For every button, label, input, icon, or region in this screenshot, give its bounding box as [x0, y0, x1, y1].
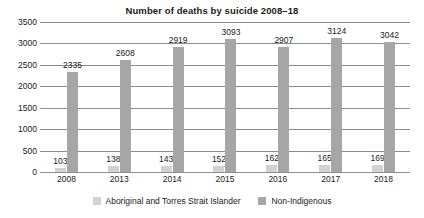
y-axis-tick-label: 2500: [3, 60, 37, 70]
bar-value-label: 143: [159, 154, 173, 164]
bar[interactable]: [278, 47, 289, 172]
legend-label: Aboriginal and Torres Strait Islander: [106, 196, 241, 206]
bar[interactable]: [55, 168, 66, 172]
x-axis-tick-label: 2015: [216, 174, 235, 184]
chart-container: Number of deaths by suicide 2008–18 3500…: [0, 0, 424, 218]
bar-value-label: 2608: [116, 48, 135, 58]
legend-swatch-icon: [93, 197, 101, 205]
y-axis-tick-label: 1500: [3, 103, 37, 113]
x-axis-tick-label: 2013: [110, 174, 129, 184]
bar[interactable]: [266, 165, 277, 172]
bar[interactable]: [384, 42, 395, 172]
y-axis-tick-label: 1000: [3, 124, 37, 134]
bar-value-label: 169: [370, 153, 384, 163]
bar[interactable]: [173, 47, 184, 172]
bar-group: 1032335: [40, 22, 93, 172]
bar[interactable]: [331, 38, 342, 172]
y-axis-tick-label: 2000: [3, 81, 37, 91]
chart-legend: Aboriginal and Torres Strait IslanderNon…: [0, 196, 424, 206]
gridline: [40, 172, 410, 173]
x-axis-tick-label: 2014: [163, 174, 182, 184]
legend-item[interactable]: Aboriginal and Torres Strait Islander: [93, 196, 241, 206]
bar[interactable]: [67, 72, 78, 172]
bar-value-label: 3124: [327, 26, 346, 36]
bar-value-label: 2907: [274, 35, 293, 45]
x-axis: 2008201320142015201620172018: [40, 174, 410, 187]
y-axis: 3500300025002000150010005000: [0, 22, 37, 172]
bar-group: 1382608: [93, 22, 146, 172]
bar[interactable]: [161, 166, 172, 172]
bar-value-label: 165: [318, 153, 332, 163]
legend-swatch-icon: [258, 197, 266, 205]
chart-title: Number of deaths by suicide 2008–18: [0, 5, 424, 16]
bar-value-label: 2335: [63, 60, 82, 70]
y-axis-tick-label: 500: [3, 146, 37, 156]
bar-value-label: 138: [106, 154, 120, 164]
bar[interactable]: [319, 165, 330, 172]
bar-value-label: 3093: [222, 27, 241, 37]
bar-group: 1432919: [146, 22, 199, 172]
bar-value-label: 2919: [169, 35, 188, 45]
legend-label: Non-Indigenous: [271, 196, 331, 206]
bar-group: 1693042: [357, 22, 410, 172]
bar-value-label: 152: [212, 154, 226, 164]
y-axis-tick-label: 3500: [3, 17, 37, 27]
bar[interactable]: [120, 60, 131, 172]
bar-value-label: 162: [265, 153, 279, 163]
bar-group: 1622907: [251, 22, 304, 172]
bars-layer: 1032335138260814329191523093162290716531…: [40, 22, 410, 172]
y-axis-tick-label: 3000: [3, 38, 37, 48]
bar[interactable]: [213, 166, 224, 173]
x-axis-tick-label: 2008: [57, 174, 76, 184]
bar-value-label: 103: [53, 156, 67, 166]
bar[interactable]: [225, 39, 236, 172]
x-axis-tick-label: 2018: [374, 174, 393, 184]
bar-value-label: 3042: [380, 30, 399, 40]
bar[interactable]: [108, 166, 119, 172]
y-axis-tick-label: 0: [3, 167, 37, 177]
x-axis-tick-label: 2017: [321, 174, 340, 184]
bar-group: 1653124: [304, 22, 357, 172]
bar[interactable]: [372, 165, 383, 172]
bar-group: 1523093: [199, 22, 252, 172]
legend-item[interactable]: Non-Indigenous: [258, 196, 331, 206]
x-axis-tick-label: 2016: [268, 174, 287, 184]
